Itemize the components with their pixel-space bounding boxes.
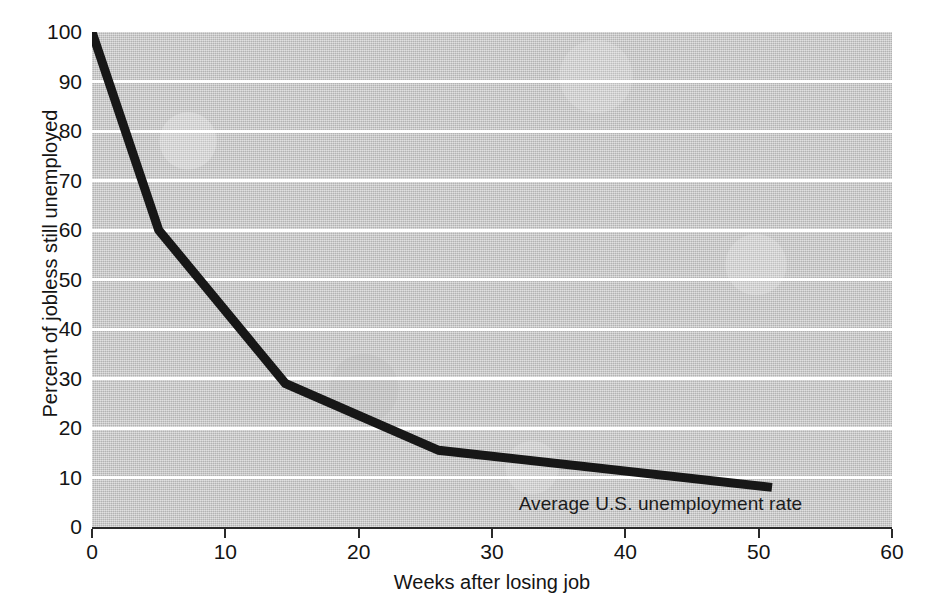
average-unemployment-rate-annotation: Average U.S. unemployment rate	[519, 493, 803, 515]
x-tick-label-20: 20	[347, 540, 370, 564]
y-tick-label-40: 40	[59, 317, 82, 341]
x-tick-30	[491, 529, 493, 538]
x-tick-40	[624, 529, 626, 538]
unemployment-duration-chart: Average U.S. unemployment rate 010203040…	[0, 0, 932, 615]
x-tick-0	[91, 529, 93, 538]
x-axis-title: Weeks after losing job	[92, 571, 892, 594]
y-tick-label-0: 0	[70, 515, 82, 539]
y-tick-label-20: 20	[59, 416, 82, 440]
x-tick-10	[224, 529, 226, 538]
x-tick-20	[358, 529, 360, 538]
x-tick-50	[758, 529, 760, 538]
y-axis-title: Percent of jobless still unemployed	[39, 14, 62, 514]
plot-area: Average U.S. unemployment rate	[92, 32, 892, 527]
x-tick-label-50: 50	[747, 540, 770, 564]
data-series-line	[92, 32, 772, 487]
y-tick-label-10: 10	[59, 466, 82, 490]
x-tick-label-60: 60	[880, 540, 903, 564]
data-line-svg	[92, 32, 892, 527]
y-tick-label-50: 50	[59, 268, 82, 292]
x-tick-label-30: 30	[480, 540, 503, 564]
y-tick-label-60: 60	[59, 218, 82, 242]
y-tick-label-90: 90	[59, 70, 82, 94]
x-tick-label-40: 40	[614, 540, 637, 564]
x-tick-label-0: 0	[86, 540, 98, 564]
y-tick-label-30: 30	[59, 367, 82, 391]
y-tick-label-80: 80	[59, 119, 82, 143]
x-tick-60	[891, 529, 893, 538]
x-tick-label-10: 10	[214, 540, 237, 564]
y-tick-label-70: 70	[59, 169, 82, 193]
